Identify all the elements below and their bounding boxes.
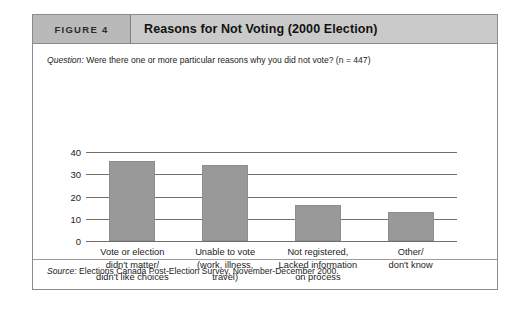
- figure-body: Question: Were there one or more particu…: [33, 44, 497, 289]
- question-line: Question: Were there one or more particu…: [47, 55, 371, 65]
- figure-box: FIGURE 4 Reasons for Not Voting (2000 El…: [32, 14, 498, 290]
- bar: [388, 212, 434, 241]
- x-axis-category-label-line: don't know: [358, 259, 463, 272]
- bar: [109, 161, 155, 241]
- source-divider: [33, 259, 497, 260]
- figure-screenshot: FIGURE 4 Reasons for Not Voting (2000 El…: [0, 0, 520, 309]
- y-tick-label: 40: [33, 147, 81, 158]
- x-axis-category-label-line: Vote or election: [80, 246, 185, 259]
- figure-title-cell: Reasons for Not Voting (2000 Election): [131, 15, 497, 43]
- figure-title: Reasons for Not Voting (2000 Election): [144, 22, 377, 36]
- source-text: Elections Canada Post-Election Survey, N…: [77, 266, 339, 276]
- y-tick-label: 0: [33, 236, 81, 247]
- bar-series: [86, 84, 457, 259]
- x-axis-category-label: Not registered,Lacked informationon proc…: [266, 246, 371, 284]
- x-axis-category-label-line: Not registered,: [266, 246, 371, 259]
- question-text: Were there one or more particular reason…: [84, 55, 371, 65]
- bar: [202, 165, 248, 241]
- y-tick-label: 20: [33, 191, 81, 202]
- question-label: Question:: [47, 55, 84, 65]
- figure-number-label: FIGURE 4: [54, 24, 108, 35]
- source-label: Source:: [47, 266, 77, 276]
- x-axis-category-label-line: Other/: [358, 246, 463, 259]
- x-axis-category-label-line: Unable to vote: [173, 246, 278, 259]
- bar-chart: 010203040: [33, 84, 499, 259]
- x-axis-category-label: Vote or electiondidn't matter/didn't lik…: [80, 246, 185, 284]
- y-tick-label: 10: [33, 213, 81, 224]
- plot-area: [86, 84, 457, 259]
- bar: [295, 205, 341, 241]
- y-axis: 010203040: [33, 84, 81, 259]
- source-line: Source: Elections Canada Post-Election S…: [47, 266, 339, 276]
- x-axis-category-label: Unable to vote(work, illness,travel): [173, 246, 278, 284]
- figure-number-cell: FIGURE 4: [33, 15, 131, 43]
- figure-header: FIGURE 4 Reasons for Not Voting (2000 El…: [33, 15, 497, 44]
- y-tick-label: 30: [33, 169, 81, 180]
